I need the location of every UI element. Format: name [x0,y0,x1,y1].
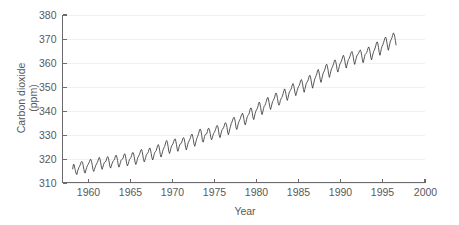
co2-chart-figure: 310320330340350360370380 196019651970197… [0,0,459,225]
x-tick-label: 1975 [203,186,227,198]
x-tick-label: 1965 [119,186,143,198]
y-axis-title-line1: Carbon dioxide [15,63,27,134]
x-axis-title: Year [234,205,256,217]
y-tick-label: 360 [39,57,57,69]
x-axis-ticks: 196019651970197519801985199019952000 [77,179,438,198]
y-tick-label: 370 [39,33,57,45]
y-tick-label: 310 [39,177,57,189]
x-tick-label: 1995 [371,186,395,198]
y-tick-label: 320 [39,153,57,165]
y-axis-title-line2: (ppm) [27,84,39,111]
y-tick-label: 380 [39,9,57,21]
y-tick-label: 340 [39,105,57,117]
x-tick-label: 1970 [161,186,185,198]
x-tick-label: 1990 [329,186,353,198]
x-tick-label: 1985 [287,186,311,198]
co2-series-line [73,33,396,175]
y-tick-label: 350 [39,81,57,93]
chart-canvas: 310320330340350360370380 196019651970197… [0,0,459,225]
data-series-group [73,33,396,175]
x-tick-label: 1980 [245,186,269,198]
y-tick-label: 330 [39,129,57,141]
x-tick-label: 1960 [77,186,101,198]
x-tick-label: 2000 [414,186,438,198]
